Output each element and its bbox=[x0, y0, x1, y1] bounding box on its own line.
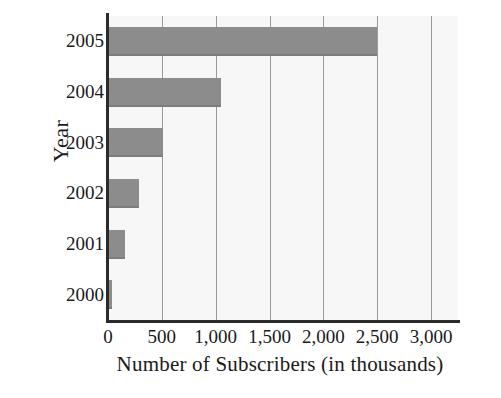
bar-2002 bbox=[108, 179, 139, 208]
y-axis-tick-label: 2000 bbox=[38, 285, 104, 304]
x-axis-tick-label: 3,000 bbox=[410, 326, 453, 348]
y-axis-tick-label: 2002 bbox=[38, 183, 104, 202]
x-axis-title: Number of Subscribers (in thousands) bbox=[80, 352, 480, 377]
bar-2005 bbox=[108, 27, 377, 56]
bar-chart: Year 200520042003200220012000 05001,0001… bbox=[0, 0, 501, 398]
y-axis-tick-label: 2005 bbox=[38, 31, 104, 50]
y-axis-tick-labels: 200520042003200220012000 bbox=[38, 16, 104, 320]
x-axis-tick-label: 2,500 bbox=[356, 326, 399, 348]
plot-area bbox=[108, 16, 458, 320]
y-axis-line bbox=[106, 13, 109, 323]
x-axis-line bbox=[106, 320, 460, 323]
x-axis-tick-label: 500 bbox=[148, 326, 177, 348]
y-axis-tick-label: 2001 bbox=[38, 234, 104, 253]
bar-2004 bbox=[108, 78, 221, 107]
x-axis-tick-label: 1,000 bbox=[194, 326, 237, 348]
x-axis-tick-label: 2,000 bbox=[302, 326, 345, 348]
y-axis-tick-label: 2003 bbox=[38, 133, 104, 152]
x-axis-tick-labels: 05001,0001,5002,0002,5003,000 bbox=[108, 326, 458, 350]
x-axis-tick-label: 1,500 bbox=[248, 326, 291, 348]
x-axis-tick-label: 0 bbox=[103, 326, 113, 348]
bars-layer bbox=[108, 16, 458, 320]
bar-2003 bbox=[108, 128, 163, 157]
y-axis-tick-label: 2004 bbox=[38, 82, 104, 101]
bar-2001 bbox=[108, 230, 125, 259]
